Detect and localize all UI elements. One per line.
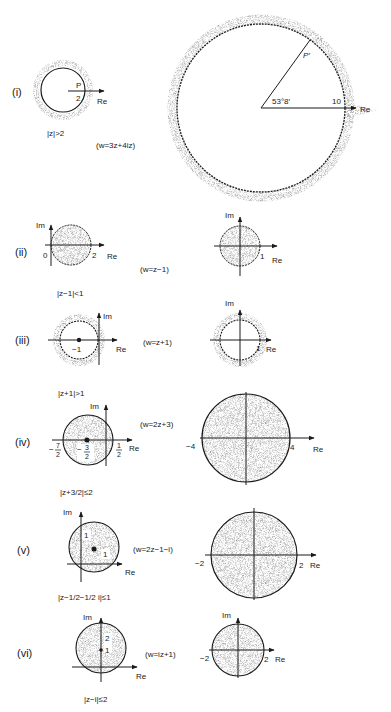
- radius-label: 10: [332, 97, 341, 106]
- w-plane-iii: Im 1 Re: [210, 299, 277, 366]
- tick-1: 1: [256, 344, 261, 353]
- mapping-label: (w=3z+4iz): [96, 141, 135, 150]
- svg-text:−: −: [49, 445, 54, 454]
- tick-0: 0: [43, 251, 48, 260]
- row-label: (i): [12, 86, 22, 98]
- re-axis-label: Re: [125, 568, 136, 577]
- svg-text:7: 7: [56, 442, 60, 449]
- z-region-label: |z−1/2−1/2 i|≤1: [58, 593, 111, 602]
- svg-text:2: 2: [56, 451, 60, 458]
- mapping-label: (w=z−1): [140, 265, 169, 274]
- w-plane-v: −2 2 Re: [195, 508, 321, 600]
- mapping-label: (w=z+1): [143, 338, 172, 347]
- z-plane-iv: Im − 7 2 − 3 2 1 2 Re |z+3/2|≤2: [49, 402, 140, 497]
- w-plane-vi: Im −2 2 Re: [200, 611, 286, 678]
- im-axis-label: Im: [90, 402, 99, 411]
- tick-im-1: 1: [84, 531, 89, 540]
- angle-label: 53°8′: [272, 97, 291, 106]
- tick-1: 1: [260, 252, 265, 261]
- re-axis-label: Re: [313, 445, 324, 454]
- row-label: (iv): [15, 436, 30, 448]
- point-p: P: [76, 81, 81, 90]
- z-plane-vi: Im 2 1 Re |z−i|≤2: [72, 613, 147, 704]
- re-axis-label: Re: [97, 97, 108, 106]
- z-plane-ii: Im 0 2 Re |z−1|<1: [36, 221, 118, 298]
- row-vi: (vi) Im 2 1 Re |z−i|≤2 (w=iz+1) Im −2 2 …: [17, 611, 286, 704]
- im-axis-label: Im: [225, 211, 234, 220]
- tick-neg-4: −4: [186, 442, 196, 451]
- radius-label: 2: [76, 94, 81, 103]
- tick-2: 2: [92, 251, 97, 260]
- mapping-label: (w=iz+1): [145, 650, 176, 659]
- row-label: (vi): [17, 647, 32, 659]
- row-v: (v) Im 1 1 Re |z−1/2−1/2 i|≤1 (w=2z−1−i)…: [17, 508, 321, 602]
- tick-neg-seven-halves: − 7 2: [49, 442, 61, 458]
- row-i: (i) P 2 Re |z|>2 (w=3z+4iz) P′ 53°8′ 10 …: [12, 19, 378, 197]
- re-axis-label: Re: [272, 256, 283, 265]
- row-iii: (iii) Im −1 Re |z+1|>1 (w=z+1) Im 1 Re: [15, 299, 277, 398]
- row-label: (v): [17, 544, 30, 556]
- tick-re-1: 1: [103, 550, 108, 559]
- re-axis-label: Re: [275, 655, 286, 664]
- re-axis-label: Re: [116, 345, 127, 354]
- re-axis-label: Re: [360, 105, 371, 114]
- w-plane-ii: Im 1 Re: [214, 211, 283, 276]
- svg-text:2: 2: [85, 453, 89, 460]
- svg-text:2: 2: [117, 451, 121, 458]
- re-axis-label: Re: [266, 345, 277, 354]
- im-axis-label: Im: [83, 613, 92, 622]
- tick-one-half: 1 2: [116, 442, 122, 458]
- im-axis-label: Im: [103, 312, 112, 321]
- row-label: (iii): [15, 334, 30, 346]
- svg-text:1: 1: [117, 442, 121, 449]
- re-axis-label: Re: [107, 252, 118, 261]
- tick-2: 2: [264, 655, 269, 664]
- mapping-label: (w=2z+3): [140, 420, 174, 429]
- center-label: −1: [72, 345, 82, 354]
- tick-4: 4: [290, 443, 295, 452]
- point-p-prime: P′: [303, 51, 310, 60]
- complex-mapping-figure: (i) P 2 Re |z|>2 (w=3z+4iz) P′ 53°8′ 10 …: [0, 0, 391, 712]
- svg-text:3: 3: [85, 444, 89, 451]
- tick-2: 2: [105, 634, 110, 643]
- row-label: (ii): [15, 246, 27, 258]
- tick-neg-2: −2: [200, 654, 210, 663]
- z-plane-v: Im 1 1 Re |z−1/2−1/2 i|≤1: [58, 508, 136, 602]
- tick-2: 2: [299, 561, 304, 570]
- z-region-label: |z−1|<1: [57, 289, 84, 298]
- re-axis-label: Re: [310, 561, 321, 570]
- z-plane-i: P 2 Re |z|>2: [36, 63, 108, 138]
- z-region-label: |z−i|≤2: [84, 695, 108, 704]
- mapping-label: (w=2z−1−i): [133, 545, 173, 554]
- tick-neg-2: −2: [195, 559, 205, 568]
- z-region-label: |z|>2: [47, 129, 65, 138]
- z-plane-iii: Im −1 Re |z+1|>1: [48, 312, 127, 398]
- im-axis-label: Im: [225, 299, 234, 308]
- im-axis-label: Im: [36, 221, 45, 230]
- z-region-label: |z+1|>1: [58, 389, 85, 398]
- svg-text:−: −: [77, 445, 82, 454]
- im-axis-label: Im: [63, 508, 72, 517]
- tick-1: 1: [105, 646, 110, 655]
- re-axis-label: Re: [129, 444, 140, 453]
- im-axis-label: Im: [222, 611, 231, 620]
- z-region-label: |z+3/2|≤2: [60, 488, 93, 497]
- w-plane-i: P′ 53°8′ 10 Re: [172, 19, 378, 197]
- w-plane-iv: −4 4 Re: [186, 392, 324, 485]
- row-ii: (ii) Im 0 2 Re |z−1|<1 (w=z−1) Im 1 Re: [15, 211, 283, 298]
- re-axis-label: Re: [136, 672, 147, 681]
- row-iv: (iv) Im − 7 2 − 3 2: [15, 392, 324, 497]
